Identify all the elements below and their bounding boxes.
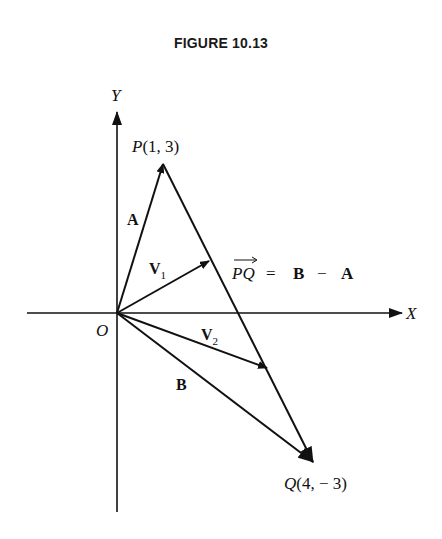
- vector-v2-letter: V: [201, 326, 213, 343]
- x-axis-label: X: [405, 304, 417, 323]
- pq-equation: PQ = B − A: [231, 257, 354, 283]
- pq-a: A: [341, 264, 354, 283]
- vector-a-label: A: [127, 211, 139, 228]
- pq-equals: =: [266, 264, 276, 283]
- point-q-label: Q(4, − 3): [284, 474, 347, 493]
- vector-v1-label: V1: [149, 260, 166, 281]
- point-p-label: P(1, 3): [131, 137, 179, 156]
- vector-v1-sub: 1: [161, 269, 167, 281]
- vector-diagram: Y X O P(1, 3) Q(4, − 3) A B V1 V2 PQ = B…: [0, 0, 442, 539]
- vector-v2: [117, 313, 267, 368]
- point-p-name: P: [131, 137, 142, 156]
- pq-minus: −: [317, 264, 327, 283]
- origin-label: O: [96, 321, 108, 340]
- pq-b: B: [293, 264, 304, 283]
- point-q-name: Q: [284, 474, 296, 493]
- y-axis-label: Y: [111, 86, 122, 105]
- vector-v1-letter: V: [149, 260, 161, 277]
- point-p-coords: (1, 3): [142, 137, 179, 156]
- point-q-coords: (4, − 3): [296, 474, 347, 493]
- vector-b-label: B: [176, 376, 187, 393]
- pq-label: PQ: [231, 264, 255, 283]
- vector-v2-sub: 2: [213, 335, 219, 347]
